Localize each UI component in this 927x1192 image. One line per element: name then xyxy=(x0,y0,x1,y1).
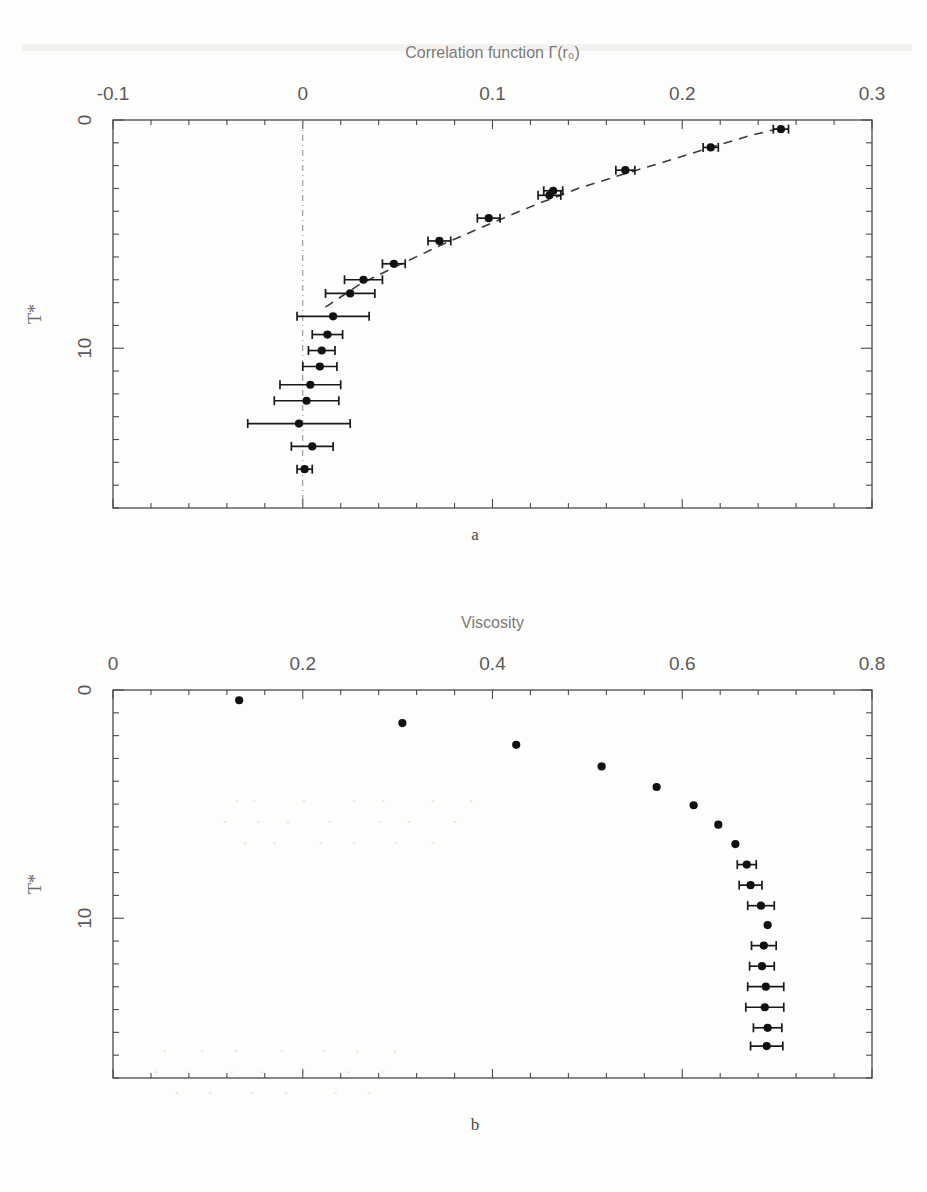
data-point xyxy=(690,801,698,809)
data-point xyxy=(621,166,629,174)
chart-title: Viscosity xyxy=(461,614,524,631)
x-tick-label: 0.2 xyxy=(669,83,695,104)
figure-panel-b: Viscosity00.20.40.60.8010T* xyxy=(0,600,927,1120)
y-tick-label: 10 xyxy=(74,908,95,929)
data-point xyxy=(398,719,406,727)
data-point xyxy=(512,741,520,749)
data-point xyxy=(390,260,398,268)
data-point xyxy=(302,397,310,405)
data-point xyxy=(295,419,303,427)
plot-frame xyxy=(113,690,872,1078)
chart-title: Correlation function Γ(r₀) xyxy=(405,44,580,61)
data-point xyxy=(758,962,766,970)
x-tick-label: 0 xyxy=(108,653,119,674)
data-point xyxy=(777,125,785,133)
y-axis-title: T* xyxy=(25,304,45,324)
x-tick-label: 0.6 xyxy=(669,653,695,674)
data-point xyxy=(316,362,324,370)
data-point xyxy=(764,921,772,929)
chart-panel-a: Correlation function Γ(r₀)-0.100.10.20.3… xyxy=(0,30,927,550)
x-tick-label: 0.2 xyxy=(290,653,316,674)
data-point xyxy=(762,983,770,991)
data-series xyxy=(248,125,789,474)
x-tick-label: 0.3 xyxy=(859,83,885,104)
x-tick-label: 0.1 xyxy=(479,83,505,104)
data-point xyxy=(545,191,553,199)
y-axis-title: T* xyxy=(25,874,45,894)
data-point xyxy=(301,465,309,473)
data-point xyxy=(707,143,715,151)
y-tick-label: 0 xyxy=(74,685,95,696)
data-point xyxy=(764,1024,772,1032)
x-tick-label: 0 xyxy=(297,83,308,104)
y-tick-label: 10 xyxy=(74,338,95,359)
data-point xyxy=(235,696,243,704)
data-point xyxy=(761,1003,769,1011)
data-point xyxy=(746,881,754,889)
data-point xyxy=(329,312,337,320)
panel-b-caption: b xyxy=(455,1115,495,1135)
data-point xyxy=(435,237,443,245)
data-point xyxy=(306,381,314,389)
data-point xyxy=(731,840,739,848)
data-point xyxy=(485,214,493,222)
data-point xyxy=(318,346,326,354)
panel-a-caption: a xyxy=(455,525,495,545)
fit-curve xyxy=(326,128,781,307)
data-point xyxy=(714,821,722,829)
data-point xyxy=(743,861,751,869)
plot-frame xyxy=(113,120,872,508)
data-point xyxy=(598,762,606,770)
data-point xyxy=(346,289,354,297)
chart-panel-b: Viscosity00.20.40.60.8010T* xyxy=(0,600,927,1120)
x-tick-label: -0.1 xyxy=(97,83,130,104)
data-point xyxy=(323,330,331,338)
figure-panel-a: Correlation function Γ(r₀)-0.100.10.20.3… xyxy=(0,30,927,550)
data-point xyxy=(653,783,661,791)
data-point xyxy=(760,942,768,950)
data-series xyxy=(235,696,784,1050)
data-point xyxy=(757,902,765,910)
y-tick-label: 0 xyxy=(74,115,95,126)
data-point xyxy=(763,1042,771,1050)
x-tick-label: 0.8 xyxy=(859,653,885,674)
data-point xyxy=(359,276,367,284)
x-tick-label: 0.4 xyxy=(479,653,506,674)
data-point xyxy=(308,442,316,450)
